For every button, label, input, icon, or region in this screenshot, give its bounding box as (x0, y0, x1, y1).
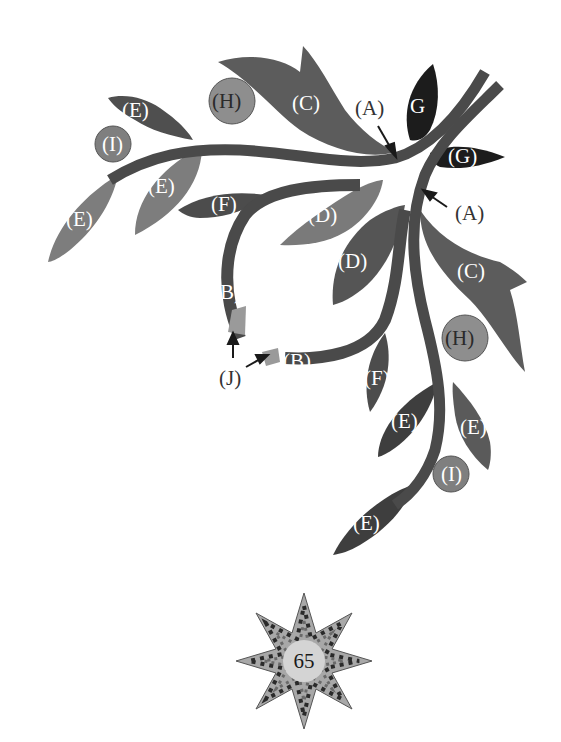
label-e-left: (E) (66, 207, 93, 231)
label-f-lower: (F) (364, 366, 390, 390)
label-i-left: (I) (102, 132, 123, 156)
label-g-right: (G) (448, 144, 477, 168)
label-c-top: (C) (292, 91, 320, 115)
applique-diagram: (E) (I) (H) (C) (A) G (G) (E) (E) (F) (D… (0, 0, 561, 742)
arrow-a2 (423, 190, 447, 207)
label-h-top: (H) (212, 89, 241, 113)
label-j: (J) (219, 366, 241, 390)
label-e-lower-right: (E) (460, 415, 487, 439)
stem-group (110, 72, 500, 505)
label-c-right: (C) (457, 259, 485, 283)
label-a-top: (A) (355, 96, 384, 120)
label-d-lower: (D) (338, 249, 367, 273)
label-i-right: (I) (441, 462, 462, 486)
label-e-top: (E) (122, 98, 149, 122)
label-h-right: (H) (445, 326, 474, 350)
label-e-lower-left: (E) (391, 409, 418, 433)
lone-star-icon: 65 (236, 593, 372, 729)
label-g-upper: G (410, 94, 425, 118)
label-a-right: (A) (455, 201, 484, 225)
label-e-mid: (E) (148, 174, 175, 198)
label-b-left: (B) (213, 280, 241, 304)
label-d-upper: (D) (308, 203, 337, 227)
page-number: 65 (294, 649, 315, 673)
label-f-left: (F) (211, 192, 237, 216)
label-b-lower: (B) (283, 349, 311, 373)
label-e-bottom: (E) (353, 511, 380, 535)
